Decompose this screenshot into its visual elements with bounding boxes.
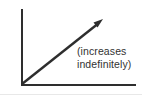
page-edge-artifact xyxy=(0,94,142,95)
annotation-line-2: indefinitely) xyxy=(77,58,131,71)
annotation-line-1: (increases xyxy=(77,45,131,58)
sketch-graph-figure: (increases indefinitely) xyxy=(0,0,142,96)
annotation-increases-indefinitely: (increases indefinitely) xyxy=(77,45,131,71)
